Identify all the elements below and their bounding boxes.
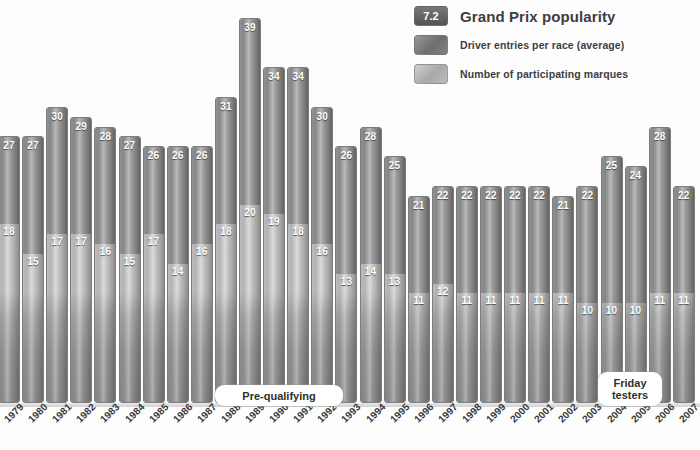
bar-segment-marques (168, 264, 188, 402)
bar-segment-driver-entries (577, 187, 597, 305)
bar-value-marques: 11 (481, 296, 501, 306)
bar-segment-driver-entries (409, 197, 429, 296)
bar-segment-driver-entries (288, 68, 308, 226)
bar-value-marques: 18 (0, 227, 19, 237)
annotation-pre-qualifying-label: Pre-qualifying (242, 390, 315, 402)
bar-1998[interactable]: 2211 (456, 186, 478, 403)
bar-segment-driver-entries (47, 108, 67, 236)
bar-value-marques: 10 (626, 306, 646, 316)
bar-value-driver-entries: 22 (529, 191, 549, 201)
bar-segment-driver-entries (650, 128, 670, 296)
bar-value-marques: 11 (505, 296, 525, 306)
bar-segment-marques (312, 244, 332, 402)
bar-value-marques: 16 (95, 247, 115, 257)
legend-swatch-dark (414, 35, 448, 55)
bar-value-driver-entries: 27 (0, 141, 19, 151)
bar-1990[interactable]: 3419 (263, 67, 285, 403)
bar-value-marques: 17 (71, 237, 91, 247)
bar-value-driver-entries: 24 (626, 171, 646, 181)
bar-value-driver-entries: 25 (385, 161, 405, 171)
bar-1989[interactable]: 3920 (239, 18, 261, 403)
bar-1995[interactable]: 2513 (384, 156, 406, 403)
bar-value-driver-entries: 39 (240, 23, 260, 33)
bar-value-marques: 12 (433, 287, 453, 297)
bar-value-driver-entries: 30 (312, 112, 332, 122)
bar-2005[interactable]: 2410 (625, 166, 647, 403)
bar-2006[interactable]: 2811 (649, 127, 671, 403)
bar-1984[interactable]: 2715 (119, 136, 141, 403)
bar-1996[interactable]: 2111 (408, 196, 430, 403)
bar-value-driver-entries: 26 (192, 151, 212, 161)
bar-1992[interactable]: 3016 (311, 107, 333, 403)
bar-1993[interactable]: 2613 (335, 146, 357, 403)
bar-1985[interactable]: 2617 (143, 146, 165, 403)
bar-segment-driver-entries (553, 197, 573, 296)
bar-segment-driver-entries (23, 137, 43, 255)
bar-2000[interactable]: 2211 (504, 186, 526, 403)
bar-1997[interactable]: 2212 (432, 186, 454, 403)
bar-value-marques: 15 (23, 257, 43, 267)
bar-2002[interactable]: 2111 (552, 196, 574, 403)
bar-value-driver-entries: 22 (577, 191, 597, 201)
bar-segment-marques (216, 224, 236, 402)
bar-segment-driver-entries (168, 147, 188, 265)
bar-1979[interactable]: 2718 (0, 136, 20, 403)
bar-1983[interactable]: 2816 (94, 127, 116, 403)
bar-value-driver-entries: 30 (47, 112, 67, 122)
bar-2004[interactable]: 2510 (601, 156, 623, 403)
bar-segment-driver-entries (192, 147, 212, 246)
bar-value-driver-entries: 26 (336, 151, 356, 161)
bar-value-driver-entries: 21 (553, 201, 573, 211)
bar-segment-marques (0, 224, 19, 402)
legend-label-marques: Number of participating marques (460, 68, 628, 80)
bar-segment-driver-entries (120, 137, 140, 255)
bar-value-marques: 11 (553, 296, 573, 306)
bar-segment-marques (505, 293, 525, 402)
bar-segment-marques (529, 293, 549, 402)
bar-segment-driver-entries (505, 187, 525, 296)
bar-value-marques: 11 (457, 296, 477, 306)
bar-value-marques: 16 (312, 247, 332, 257)
bar-segment-driver-entries (264, 68, 284, 216)
bar-segment-driver-entries (95, 128, 115, 246)
bar-value-driver-entries: 26 (168, 151, 188, 161)
bar-2007[interactable]: 2211 (673, 186, 695, 403)
bar-value-marques: 11 (650, 296, 670, 306)
bar-segment-marques (120, 254, 140, 402)
legend-item-driver-entries: Driver entries per race (average) (414, 35, 694, 55)
bar-1981[interactable]: 3017 (46, 107, 68, 403)
annotation-pre-qualifying: Pre-qualifying (215, 385, 343, 406)
bar-1987[interactable]: 2616 (191, 146, 213, 403)
bar-1994[interactable]: 2814 (360, 127, 382, 403)
bar-segment-driver-entries (481, 187, 501, 296)
bar-segment-marques (433, 284, 453, 402)
bar-1988[interactable]: 3118 (215, 97, 237, 403)
bar-value-driver-entries: 34 (264, 72, 284, 82)
bar-segment-driver-entries (240, 19, 260, 207)
bar-2003[interactable]: 2210 (576, 186, 598, 403)
bar-segment-marques (577, 303, 597, 402)
bar-value-marques: 13 (385, 277, 405, 287)
bar-segment-driver-entries (216, 98, 236, 226)
bar-1982[interactable]: 2917 (70, 117, 92, 403)
bar-segment-marques (457, 293, 477, 402)
bar-segment-driver-entries (529, 187, 549, 296)
bar-segment-driver-entries (602, 157, 622, 305)
bar-segment-marques (553, 293, 573, 402)
bar-value-driver-entries: 22 (674, 191, 694, 201)
bar-2001[interactable]: 2211 (528, 186, 550, 403)
legend-title-row: 7.2 Grand Prix popularity (414, 6, 694, 26)
bar-value-driver-entries: 29 (71, 122, 91, 132)
bar-value-marques: 20 (240, 208, 260, 218)
bar-value-driver-entries: 27 (120, 141, 140, 151)
bar-value-driver-entries: 28 (361, 132, 381, 142)
x-axis-labels: 1979198019811982198319841985198619871988… (0, 407, 700, 450)
bar-segment-marques (336, 274, 356, 402)
bar-1991[interactable]: 3418 (287, 67, 309, 403)
bar-1999[interactable]: 2211 (480, 186, 502, 403)
legend-label-driver-entries: Driver entries per race (average) (460, 39, 624, 51)
bar-value-driver-entries: 28 (650, 132, 670, 142)
bar-1980[interactable]: 2715 (22, 136, 44, 403)
bar-1986[interactable]: 2614 (167, 146, 189, 403)
bar-segment-marques (288, 224, 308, 402)
